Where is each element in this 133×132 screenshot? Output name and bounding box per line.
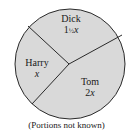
- sector-harry-label: Harry x: [20, 57, 54, 79]
- sector-dick-label: Dick 1½x: [56, 13, 86, 37]
- sector-harry-share: x: [20, 68, 54, 79]
- sector-tom-label: Tom 2x: [75, 76, 105, 98]
- sector-tom-name: Tom: [75, 76, 105, 87]
- diagram-caption: (Portions not known): [0, 120, 133, 130]
- sector-tom-share: 2x: [75, 87, 105, 98]
- sector-harry-name: Harry: [20, 57, 54, 68]
- sector-dick-name: Dick: [56, 13, 86, 24]
- sector-dick-share: 1½x: [56, 24, 86, 37]
